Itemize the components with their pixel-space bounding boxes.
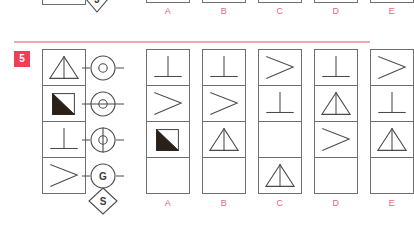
figure-triangle-with-vertical-line: [259, 158, 301, 193]
operator-symbol-5: S: [82, 186, 124, 216]
operator-symbol-3: [82, 126, 124, 154]
figure-perpendicular-tack: [315, 50, 357, 85]
option-d-cell-3[interactable]: [314, 121, 358, 158]
figure-perpendicular-tack: [203, 50, 245, 85]
option-d-cell-4[interactable]: [314, 157, 358, 194]
previous-stem-cell: [42, 0, 86, 5]
figure-perpendicular-tack: [43, 122, 85, 157]
option-label-b: B: [202, 198, 246, 208]
stem-cell-4: [42, 157, 86, 194]
figure-triangle-with-vertical-line: [315, 86, 357, 121]
stem-cell-1: [42, 49, 86, 86]
section-divider: [14, 41, 370, 43]
option-a-cell-2[interactable]: [146, 85, 190, 122]
previous-option-label-b: B: [202, 6, 246, 16]
figure-empty: [203, 158, 245, 193]
previous-option-cell: [146, 0, 190, 3]
option-label-d: D: [314, 198, 358, 208]
option-b-cell-3[interactable]: [202, 121, 246, 158]
option-c-cell-3[interactable]: [258, 121, 302, 158]
figure-square-with-filled-lower-left-triangle: [43, 86, 85, 121]
option-b-cell-4[interactable]: [202, 157, 246, 194]
operator-symbol-letter-g: G: [99, 171, 107, 182]
previous-option-cell: [314, 0, 358, 3]
stem-cell-3: [42, 121, 86, 158]
figure-triangle-with-vertical-line: [43, 50, 85, 85]
figure-triangle-with-vertical-line: [203, 122, 245, 157]
figure-empty: [147, 158, 189, 193]
previous-option-cell: [258, 0, 302, 3]
option-c-cell-4[interactable]: [258, 157, 302, 194]
option-a-cell-4[interactable]: [146, 157, 190, 194]
previous-symbol-letter: J: [94, 0, 100, 5]
previous-option-label-d: D: [314, 6, 358, 16]
operator-symbol-2: [82, 90, 124, 118]
previous-option-label-a: A: [146, 6, 190, 16]
option-label-a: A: [146, 198, 190, 208]
option-c-cell-1[interactable]: [258, 49, 302, 86]
figure-greater-than-chevron: [315, 122, 357, 157]
option-b-cell-2[interactable]: [202, 85, 246, 122]
figure-greater-than-chevron: [43, 158, 85, 193]
previous-option-label-c: C: [258, 6, 302, 16]
operator-symbol-1: [82, 54, 124, 82]
option-label-e: E: [370, 198, 414, 208]
figure-greater-than-chevron: [371, 50, 413, 85]
figure-perpendicular-tack: [371, 86, 413, 121]
previous-option-cell: [370, 0, 414, 3]
option-d-cell-2[interactable]: [314, 85, 358, 122]
option-e-cell-4[interactable]: [370, 157, 414, 194]
figure-empty: [315, 158, 357, 193]
option-e-cell-1[interactable]: [370, 49, 414, 86]
option-e-cell-2[interactable]: [370, 85, 414, 122]
option-a-cell-3[interactable]: [146, 121, 190, 158]
stem-cell-2: [42, 85, 86, 122]
question-number-badge: 5: [14, 51, 30, 67]
operator-symbol-letter-s: S: [100, 196, 107, 207]
figure-perpendicular-tack: [259, 86, 301, 121]
previous-operator-symbol-diamond-j: J: [82, 0, 112, 17]
figure-greater-than-chevron: [259, 50, 301, 85]
previous-option-label-e: E: [370, 6, 414, 16]
figure-triangle-with-vertical-line: [371, 122, 413, 157]
option-e-cell-3[interactable]: [370, 121, 414, 158]
option-c-cell-2[interactable]: [258, 85, 302, 122]
figure-greater-than-chevron: [203, 86, 245, 121]
option-label-c: C: [258, 198, 302, 208]
figure-greater-than-chevron: [147, 86, 189, 121]
figure-empty: [259, 122, 301, 157]
option-d-cell-1[interactable]: [314, 49, 358, 86]
figure-empty: [371, 158, 413, 193]
option-b-cell-1[interactable]: [202, 49, 246, 86]
figure-perpendicular-tack: [147, 50, 189, 85]
option-a-cell-1[interactable]: [146, 49, 190, 86]
figure-square-with-filled-lower-left-triangle: [147, 122, 189, 157]
previous-option-cell: [202, 0, 246, 3]
